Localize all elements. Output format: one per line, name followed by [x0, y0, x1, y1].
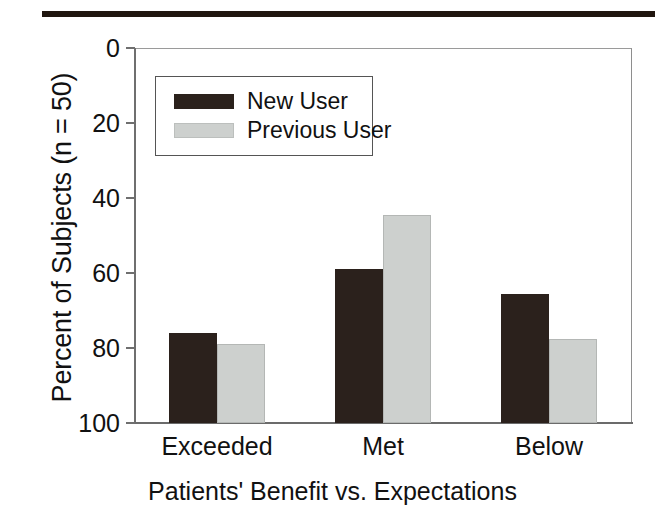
legend-label-previous-user: Previous User: [247, 119, 391, 142]
x-axis-category-labels: ExceededMetBelow: [134, 432, 632, 466]
legend-swatch-previous-user-icon: [174, 123, 234, 138]
y-axis-tick-60: [126, 197, 135, 199]
y-axis-tick-label-40: 60: [58, 259, 120, 288]
legend-swatch-new-user-icon: [174, 94, 234, 109]
x-axis-title: Patients' Benefit vs. Expectations: [0, 477, 665, 506]
x-axis-category-label-below: Below: [515, 432, 583, 461]
bar-below-new-user: [501, 294, 549, 423]
y-axis-tick-80: [126, 122, 135, 124]
chart-figure: Percent of Subjects (n = 50) 10080604020…: [0, 0, 665, 516]
top-rule-divider: [42, 11, 655, 17]
y-axis-tick-label-100: 0: [58, 34, 120, 63]
bar-below-previous-user: [549, 339, 597, 423]
legend-box: New User Previous User: [155, 76, 373, 156]
y-axis-tick-20: [126, 347, 135, 349]
y-axis-tick-label-80: 20: [58, 109, 120, 138]
legend-entry-previous-user: Previous User: [174, 119, 391, 142]
y-axis-tick-labels: 100806040200: [48, 0, 120, 516]
x-axis-category-label-exceeded: Exceeded: [161, 432, 272, 461]
y-axis-tick-0: [126, 422, 135, 424]
legend-label-new-user: New User: [247, 90, 348, 113]
bar-met-new-user: [335, 269, 383, 423]
bar-exceeded-new-user: [169, 333, 217, 423]
y-axis-tick-label-0: 100: [58, 409, 120, 438]
x-axis-category-label-met: Met: [362, 432, 404, 461]
y-axis-tick-label-60: 40: [58, 184, 120, 213]
y-axis-tick-40: [126, 272, 135, 274]
bar-exceeded-previous-user: [217, 344, 265, 423]
y-axis-tick-100: [126, 47, 135, 49]
legend-entry-new-user: New User: [174, 90, 348, 113]
bar-met-previous-user: [383, 215, 431, 423]
y-axis-tick-label-20: 80: [58, 334, 120, 363]
